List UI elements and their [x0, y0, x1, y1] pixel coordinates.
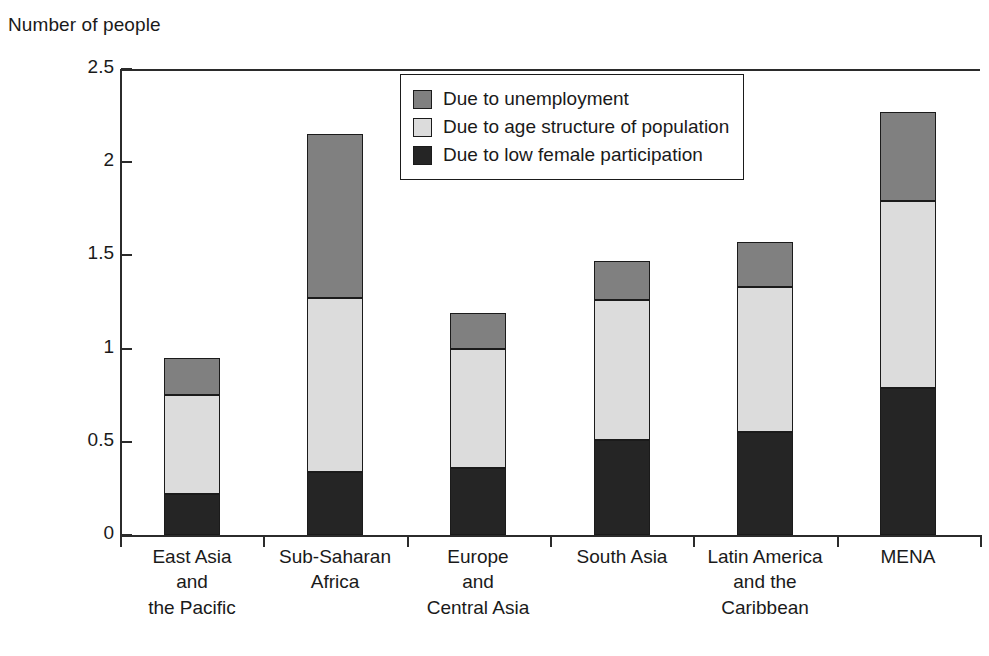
bar-segment[interactable]: [594, 261, 650, 300]
bar-group[interactable]: [737, 69, 793, 535]
legend-label: Due to low female participation: [443, 144, 703, 166]
y-tick-label: 2: [103, 149, 114, 171]
legend-item[interactable]: Due to unemployment: [413, 85, 729, 113]
bar-segment[interactable]: [164, 358, 220, 395]
y-tick-mark: [121, 68, 132, 70]
bar-group[interactable]: [164, 69, 220, 535]
top-gridline: [120, 69, 980, 71]
bar-segment[interactable]: [450, 468, 506, 535]
bar-segment[interactable]: [737, 242, 793, 287]
y-tick-label: 1.5: [88, 242, 114, 264]
bar-segment[interactable]: [307, 134, 363, 298]
legend-swatch-icon: [413, 118, 432, 137]
bar-segment[interactable]: [880, 112, 936, 201]
legend-item[interactable]: Due to age structure of population: [413, 113, 729, 141]
bar-segment[interactable]: [164, 494, 220, 535]
chart-legend: Due to unemploymentDue to age structure …: [400, 74, 744, 180]
bar-group[interactable]: [307, 69, 363, 535]
y-tick-mark: [121, 534, 132, 536]
bar-segment[interactable]: [307, 298, 363, 471]
bar-segment[interactable]: [880, 388, 936, 535]
y-tick-mark: [121, 161, 132, 163]
legend-item[interactable]: Due to low female participation: [413, 141, 729, 169]
legend-label: Due to unemployment: [443, 88, 629, 110]
bar-segment[interactable]: [164, 395, 220, 494]
bar-segment[interactable]: [450, 349, 506, 468]
bar-segment[interactable]: [307, 472, 363, 535]
bar-segment[interactable]: [737, 432, 793, 535]
y-tick-label: 0.5: [88, 429, 114, 451]
bar-segment[interactable]: [737, 287, 793, 432]
y-tick-mark: [121, 441, 132, 443]
stacked-bar-chart: Number of people 00.511.522.5 East Asia …: [0, 0, 989, 656]
bar-segment[interactable]: [450, 313, 506, 348]
x-axis-label: MENA: [823, 544, 989, 569]
bar-segment[interactable]: [594, 440, 650, 535]
bar-segment[interactable]: [880, 201, 936, 387]
y-tick-mark: [121, 348, 132, 350]
legend-swatch-icon: [413, 90, 432, 109]
y-tick-mark: [121, 254, 132, 256]
legend-swatch-icon: [413, 146, 432, 165]
bar-segment[interactable]: [594, 300, 650, 440]
y-axis-title: Number of people: [8, 14, 161, 36]
bar-group[interactable]: [880, 69, 936, 535]
y-tick-label: 2.5: [88, 56, 114, 78]
y-tick-label: 1: [103, 336, 114, 358]
y-tick-label: 0: [103, 522, 114, 544]
legend-label: Due to age structure of population: [443, 116, 729, 138]
y-axis-line: [120, 69, 122, 535]
